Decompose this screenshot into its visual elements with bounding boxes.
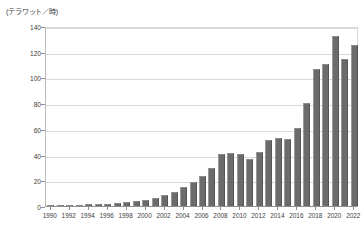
bar: [95, 204, 102, 206]
x-axis-tick-mark: [353, 207, 354, 210]
y-axis-tick-mark: [41, 53, 45, 54]
x-axis-tick-label: 1998: [119, 212, 133, 219]
bar: [199, 176, 206, 206]
bar: [57, 205, 64, 206]
y-axis-tick-label: 100: [11, 75, 41, 82]
y-axis-tick-label: 20: [11, 178, 41, 185]
x-axis-tick-label: 2018: [308, 212, 322, 219]
x-axis-tick-label: 2016: [289, 212, 303, 219]
x-axis-tick-mark: [315, 207, 316, 210]
bar: [256, 152, 263, 206]
x-axis-tick-mark: [126, 207, 127, 210]
x-axis-tick-mark: [183, 207, 184, 210]
x-axis-tick-label: 2014: [270, 212, 284, 219]
x-axis-tick-mark: [164, 207, 165, 210]
x-axis-tick-label: 2004: [175, 212, 189, 219]
bar: [190, 182, 197, 206]
bar: [123, 202, 130, 206]
y-axis-tick-mark: [41, 130, 45, 131]
y-axis-tick-label: 40: [11, 152, 41, 159]
x-axis-tick-label: 1996: [100, 212, 114, 219]
bar: [66, 205, 73, 206]
x-axis-tick-mark: [88, 207, 89, 210]
bar: [351, 45, 358, 206]
x-axis-tick-label: 2022: [346, 212, 360, 219]
x-axis-tick-mark: [220, 207, 221, 210]
y-axis-tick-mark: [41, 104, 45, 105]
bar: [313, 69, 320, 206]
bar: [294, 128, 301, 206]
y-axis-tick-mark: [41, 156, 45, 157]
x-axis-tick-label: 1994: [81, 212, 95, 219]
bar: [142, 200, 149, 206]
bar: [246, 159, 253, 206]
y-axis-tick-label: 120: [11, 49, 41, 56]
bar: [208, 168, 215, 206]
x-axis-tick-mark: [202, 207, 203, 210]
x-axis-tick-label: 1992: [62, 212, 76, 219]
bar: [171, 192, 178, 206]
bar: [227, 153, 234, 206]
x-axis-tick-label: 2020: [327, 212, 341, 219]
bar-series: [46, 28, 357, 206]
x-axis-tick-mark: [107, 207, 108, 210]
bar: [322, 64, 329, 206]
x-axis-tick-label: 2000: [137, 212, 151, 219]
y-axis-tick-mark: [41, 27, 45, 28]
x-axis-tick-label: 2008: [213, 212, 227, 219]
bar: [85, 204, 92, 206]
x-axis-tick-label: 1990: [43, 212, 57, 219]
y-axis-tick-label: 80: [11, 101, 41, 108]
x-axis-tick-label: 2010: [232, 212, 246, 219]
x-axis-tick-label: 2002: [156, 212, 170, 219]
y-axis-tick-label: 0: [11, 204, 41, 211]
bar: [133, 201, 140, 206]
x-axis-tick-mark: [69, 207, 70, 210]
bar: [104, 204, 111, 206]
bar: [161, 195, 168, 206]
bar: [303, 103, 310, 206]
x-axis-tick-mark: [296, 207, 297, 210]
y-axis-tick-label: 140: [11, 24, 41, 31]
bar: [284, 139, 291, 206]
x-axis-tick-mark: [334, 207, 335, 210]
bar: [47, 205, 54, 206]
bar: [152, 198, 159, 206]
bar: [332, 36, 339, 206]
y-axis-tick-label: 60: [11, 126, 41, 133]
x-axis-tick-mark: [50, 207, 51, 210]
y-axis-tick-mark: [41, 181, 45, 182]
plot-area: [45, 27, 358, 207]
x-axis-tick-label: 2006: [194, 212, 208, 219]
bar: [180, 187, 187, 206]
y-axis-unit-label: (テラワット／時): [6, 6, 58, 16]
x-axis-tick-mark: [277, 207, 278, 210]
bar: [237, 154, 244, 206]
bar: [265, 140, 272, 206]
bar: [275, 138, 282, 206]
x-axis-tick-mark: [145, 207, 146, 210]
y-axis-tick-mark: [41, 78, 45, 79]
x-axis-tick-mark: [258, 207, 259, 210]
x-axis-tick-mark: [239, 207, 240, 210]
y-axis-tick-mark: [41, 207, 45, 208]
bar: [341, 59, 348, 206]
x-axis-tick-label: 2012: [251, 212, 265, 219]
bar: [76, 205, 83, 206]
bar: [114, 203, 121, 206]
bar: [218, 154, 225, 206]
bar-chart: (テラワット／時) 020406080100120140 19901992199…: [0, 0, 363, 235]
